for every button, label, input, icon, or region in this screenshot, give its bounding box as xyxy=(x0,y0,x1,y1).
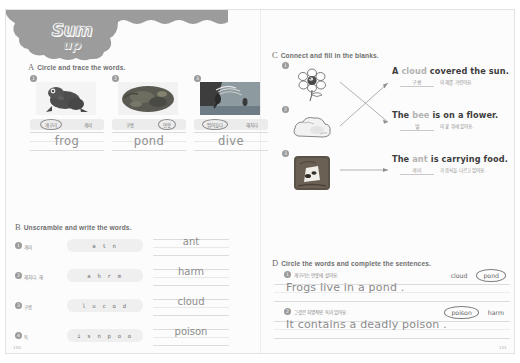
section-a-letter: A xyxy=(28,62,34,72)
trace-word: pond xyxy=(112,134,186,148)
section-b-row: 3 구름 l u c o d cloud xyxy=(6,298,256,324)
item-number: 1 xyxy=(282,62,289,69)
section-b: B Unscramble and write the words. 1 개미 a… xyxy=(6,222,261,352)
sentence-before: A xyxy=(392,66,401,76)
cropped-top-strip xyxy=(0,0,520,9)
section-a-heading: A Circle and trace the words. xyxy=(28,62,125,72)
item-number: 1 xyxy=(30,75,37,82)
korean-answer-row: 개미 가 음식을 나르고 있어요. xyxy=(392,166,512,176)
korean-hint: 구름 xyxy=(24,304,32,310)
answer-write-area[interactable]: ant xyxy=(153,235,229,257)
english-sentence: A cloud covered the sun. xyxy=(392,66,512,76)
korean-answer[interactable]: 구름 xyxy=(400,78,434,87)
item-number: 1 xyxy=(15,242,22,249)
korean-hint: 해치다, 해 xyxy=(24,274,43,280)
answer-write-area[interactable]: cloud xyxy=(153,295,229,317)
pond-photo xyxy=(118,82,178,115)
korean-answer[interactable]: 벌 xyxy=(400,122,434,131)
korean-answer-row: 구름 이 해를 가렸어요. xyxy=(392,78,512,88)
section-d-heading: D Circle the words and complete the sent… xyxy=(272,258,431,268)
word-choice-option[interactable]: 뛰어들다 xyxy=(202,119,228,130)
sentence-block: A cloud covered the sun. 구름 이 해를 가렸어요. xyxy=(392,66,512,88)
section-a: A Circle and trace the words. 1 xyxy=(6,62,261,182)
korean-answer[interactable]: 개미 xyxy=(400,166,434,175)
item-number: 3 xyxy=(15,302,22,309)
sentence-before: The xyxy=(392,154,412,164)
trace-area[interactable]: pond xyxy=(112,132,186,154)
korean-hint: 개구리는 연못에 살아요. xyxy=(294,272,338,278)
item-number: 3 xyxy=(282,150,289,157)
scrambled-letters: a h r m xyxy=(67,269,143,282)
completed-sentence: It contains a deadly poison . xyxy=(286,318,447,331)
header-banner xyxy=(6,10,228,62)
section-b-row: 1 개미 a t n ant xyxy=(6,238,256,264)
korean-sentence-tail: 이 해를 가렸어요. xyxy=(440,79,472,85)
scrambled-letters: i s n p o o xyxy=(67,329,143,342)
sentence-write-area[interactable]: It contains a deadly poison . xyxy=(274,317,510,339)
korean-hint: 독 xyxy=(24,334,28,340)
worksheet-page: Sum up A Circle and trace the words. 1 xyxy=(5,9,515,354)
item-number: 2 xyxy=(284,308,291,315)
ant-photo[interactable] xyxy=(294,156,330,190)
sentence-after: is on a flower. xyxy=(430,110,499,120)
sentence-after: covered the sun. xyxy=(427,66,509,76)
flower-with-bee-drawing[interactable] xyxy=(290,68,334,101)
section-c-title: Connect and fill in the blanks. xyxy=(281,52,379,59)
sentence-block: The ant is carrying food. 개미 가 음식을 나르고 있… xyxy=(392,154,512,176)
word-choice-group: 개구리 개미 xyxy=(30,119,104,130)
korean-sentence-tail: 이 꽃 위에 있어요. xyxy=(440,123,474,129)
section-b-row: 2 해치다, 해 a h r m harm xyxy=(6,268,256,294)
answer-word: poison xyxy=(153,326,229,337)
trace-area[interactable]: dive xyxy=(194,132,268,154)
section-b-title: Unscramble and write the words. xyxy=(24,224,132,231)
answer-word: cloud xyxy=(401,66,426,76)
section-b-letter: B xyxy=(15,222,21,232)
section-d-title: Circle the words and complete the senten… xyxy=(281,260,431,267)
item-number: 2 xyxy=(112,75,119,82)
word-choice-option[interactable]: 개미 xyxy=(81,120,95,129)
word-choice-option[interactable]: 구름 xyxy=(123,120,137,129)
frog-photo xyxy=(36,82,96,115)
answer-word: ant xyxy=(412,154,428,164)
word-choice-option[interactable]: 개구리 xyxy=(40,119,62,130)
word-choice-option[interactable]: cloud xyxy=(449,271,470,280)
sentence-write-area[interactable]: Frogs live in a pond . xyxy=(274,280,510,302)
answer-word: ant xyxy=(153,236,229,247)
trace-word: frog xyxy=(30,134,104,148)
answer-word: harm xyxy=(153,266,229,277)
english-sentence: The ant is carrying food. xyxy=(392,154,512,164)
dive-photo xyxy=(200,82,260,115)
page-number-right: 101 xyxy=(499,345,507,350)
english-sentence: The bee is on a flower. xyxy=(392,110,512,120)
page-number-left: 100 xyxy=(13,345,21,350)
section-c: C Connect and fill in the blanks. 1 xyxy=(264,50,514,210)
word-choice-group: 뛰어들다 해치다 xyxy=(194,119,268,130)
section-d: D Circle the words and complete the sent… xyxy=(264,258,515,353)
word-choice-group: 구름 연못 xyxy=(112,119,186,130)
completed-sentence: Frogs live in a pond . xyxy=(286,281,404,294)
answer-word: bee xyxy=(412,110,429,120)
item-number: 4 xyxy=(15,332,22,339)
item-number: 3 xyxy=(194,75,201,82)
section-c-letter: C xyxy=(272,50,278,60)
korean-hint: 개미 xyxy=(24,244,32,250)
korean-sentence-tail: 가 음식을 나르고 있어요. xyxy=(440,167,486,173)
sentence-after: is carrying food. xyxy=(428,154,508,164)
item-number: 2 xyxy=(15,272,22,279)
word-choice-option[interactable]: harm xyxy=(486,308,506,317)
trace-area[interactable]: frog xyxy=(30,132,104,154)
word-choice-option[interactable]: 해치다 xyxy=(243,120,261,129)
word-choice-option[interactable]: 연못 xyxy=(158,119,176,130)
section-b-row: 4 독 i s n p o o poison xyxy=(6,328,256,354)
sentence-block: The bee is on a flower. 벌 이 꽃 위에 있어요. xyxy=(392,110,512,132)
section-c-heading: C Connect and fill in the blanks. xyxy=(272,50,379,60)
answer-write-area[interactable]: poison xyxy=(153,325,229,347)
scrambled-letters: l u c o d xyxy=(67,299,143,312)
trace-word: dive xyxy=(194,134,268,148)
answer-write-area[interactable]: harm xyxy=(153,265,229,287)
item-number: 2 xyxy=(282,106,289,113)
cloud-drawing[interactable] xyxy=(290,112,334,145)
scrambled-letters: a t n xyxy=(67,239,143,252)
korean-answer-row: 벌 이 꽃 위에 있어요. xyxy=(392,122,512,132)
item-number: 1 xyxy=(284,271,291,278)
